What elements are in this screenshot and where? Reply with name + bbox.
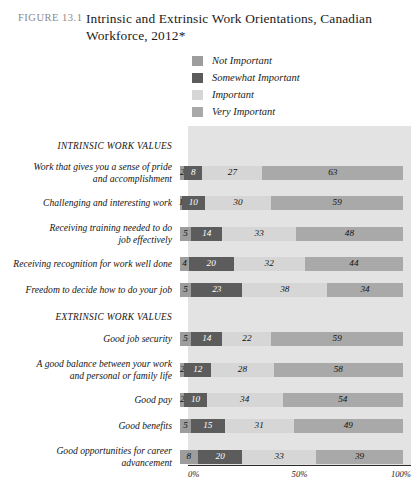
row-spacer (0, 433, 418, 445)
stacked-bar-track: 8203339 (180, 450, 403, 464)
bar-segment-value: 33 (275, 452, 284, 461)
chart-bar-row: A good balance between your workand pers… (0, 358, 418, 381)
axis-line (188, 465, 411, 466)
bar-segment-value: 31 (255, 421, 264, 430)
bar-segment: 8 (184, 166, 202, 180)
row-spacer (0, 407, 418, 419)
stacked-bar: 2122858 (180, 363, 403, 377)
bar-segment: 14 (191, 332, 222, 346)
bar-row-label: Challenging and interesting work (0, 197, 180, 209)
bar-row-label: Freedom to decide how to do your job (0, 284, 180, 296)
bar-segment-value: 34 (360, 285, 369, 294)
bar-segment: 33 (222, 227, 296, 241)
chart-bar-row: Good pay2103454 (0, 393, 418, 407)
legend-item: Not Important (192, 52, 300, 69)
bar-segment-value: 20 (216, 452, 225, 461)
bar-segment-value: 59 (333, 334, 342, 343)
bar-segment: 59 (271, 332, 403, 346)
bar-segment: 4 (180, 257, 189, 271)
bar-segment: 12 (184, 363, 211, 377)
stacked-bar-track: 4203244 (180, 257, 403, 271)
bar-segment: 59 (271, 196, 403, 210)
legend-swatch-icon (192, 107, 203, 117)
bar-segment: 22 (222, 332, 271, 346)
row-spacer (0, 210, 418, 222)
bar-segment-value: 58 (334, 365, 343, 374)
bar-segment: 49 (294, 419, 403, 433)
section-label: INTRINSIC WORK VALUES (0, 141, 180, 153)
bar-segment: 54 (283, 393, 403, 407)
bar-segment: 5 (180, 332, 191, 346)
bar-segment-value: 27 (228, 168, 237, 177)
bar-segment-value: 34 (240, 395, 249, 404)
bar-segment-value: 54 (338, 395, 347, 404)
bar-segment-value: 14 (202, 334, 211, 343)
chart-section-header: EXTRINSIC WORK VALUES (0, 309, 418, 326)
bar-row-label: Good pay (0, 394, 180, 406)
bar-segment: 63 (262, 166, 402, 180)
legend-item-label: Somewhat Important (212, 72, 300, 83)
chart-legend: Not ImportantSomewhat ImportantImportant… (192, 52, 300, 120)
bar-segment: 34 (327, 283, 403, 297)
stacked-bar: 5142259 (180, 332, 403, 346)
row-spacer (0, 297, 418, 309)
bar-segment: 38 (242, 283, 327, 297)
axis-tick-label: 50% (292, 469, 308, 479)
stacked-bar: 8203339 (180, 450, 403, 464)
legend-swatch-icon (192, 73, 203, 83)
chart-bar-row: Freedom to decide how to do your job5233… (0, 283, 418, 297)
bar-segment: 10 (184, 393, 206, 407)
legend-swatch-icon (192, 90, 203, 100)
bar-segment-value: 5 (183, 334, 188, 343)
bar-segment: 28 (211, 363, 273, 377)
stacked-bar-track: 1103059 (180, 196, 403, 210)
bar-segment-value: 59 (333, 198, 342, 207)
section-bar-spacer (180, 140, 403, 154)
stacked-bar: 5143348 (180, 227, 403, 241)
stacked-bar-track: 282763 (180, 166, 403, 180)
bar-segment-value: 23 (212, 285, 221, 294)
bar-segment: 33 (242, 450, 316, 464)
stacked-bar: 5233834 (180, 283, 403, 297)
stacked-bar: 2103454 (180, 393, 403, 407)
bar-segment-value: 28 (238, 365, 247, 374)
bar-segment: 5 (180, 227, 191, 241)
stacked-bar: 5153149 (180, 419, 403, 433)
chart-bar-row: Work that gives you a sense of prideand … (0, 161, 418, 184)
bar-segment: 30 (205, 196, 272, 210)
chart-area: INTRINSIC WORK VALUESWork that gives you… (0, 126, 418, 480)
bar-segment-value: 30 (233, 198, 242, 207)
bar-segment: 14 (191, 227, 222, 241)
bar-segment: 48 (296, 227, 403, 241)
legend-item-label: Not Important (212, 55, 272, 66)
bar-segment-value: 5 (183, 285, 188, 294)
figure-header: FIGURE 13.1 Intrinsic and Extrinsic Work… (0, 10, 418, 44)
bar-segment: 44 (305, 257, 403, 271)
stacked-bar: 1103059 (180, 196, 403, 210)
bar-segment-value: 44 (349, 259, 358, 268)
bar-row-label: Good benefits (0, 420, 180, 432)
bar-segment: 34 (207, 393, 283, 407)
stacked-bar: 4203244 (180, 257, 403, 271)
chart-bar-row: Receiving training needed to dojob effec… (0, 222, 418, 245)
axis-tick-label: 100% (391, 469, 411, 479)
bar-segment: 39 (316, 450, 403, 464)
chart-top-spacer (0, 126, 418, 138)
bar-segment-value: 4 (182, 259, 187, 268)
bar-segment-value: 10 (191, 395, 200, 404)
bar-segment-value: 63 (328, 168, 337, 177)
axis-tick-labels: 0%50%100% (188, 469, 411, 483)
bar-segment: 23 (191, 283, 242, 297)
legend-item: Very Important (192, 103, 300, 120)
bar-segment-value: 12 (193, 365, 202, 374)
stacked-bar-track: 2122858 (180, 363, 403, 377)
bar-segment: 58 (274, 363, 403, 377)
legend-item: Somewhat Important (192, 69, 300, 86)
bar-segment-value: 8 (187, 452, 192, 461)
section-label: EXTRINSIC WORK VALUES (0, 312, 180, 324)
bar-segment-value: 10 (189, 198, 198, 207)
stacked-bar-track: 5143348 (180, 227, 403, 241)
chart-bar-row: Challenging and interesting work1103059 (0, 196, 418, 210)
bar-row-label: A good balance between your workand pers… (0, 358, 180, 381)
bar-row-label: Receiving training needed to dojob effec… (0, 222, 180, 245)
